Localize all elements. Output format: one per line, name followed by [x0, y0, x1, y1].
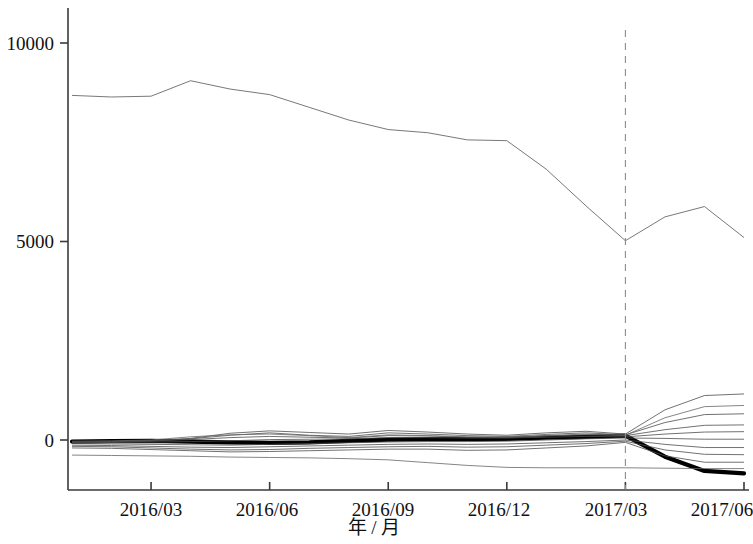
x-axis-title: 年 / 月	[348, 512, 401, 539]
y-tick-label-10000: 10000	[0, 34, 54, 53]
y-tick-label-0: 0	[0, 431, 54, 450]
x-tick-label-2016-12: 2016/12	[468, 500, 530, 519]
x-tick-label-2016-06: 2016/06	[236, 500, 298, 519]
y-tick-label-5000: 5000	[0, 232, 54, 251]
x-tick-label-2017-06: 2017/06	[691, 500, 753, 519]
data-series-group	[72, 81, 744, 474]
series-line-fan-series-9	[72, 455, 744, 468]
axes	[68, 8, 749, 490]
x-tick-label-2017-03: 2017/03	[585, 500, 647, 519]
y-axis-ticks	[60, 43, 68, 440]
x-tick-label-2016-03: 2016/03	[120, 500, 182, 519]
x-axis-ticks	[151, 482, 744, 490]
series-line-total-upper-series	[72, 81, 744, 241]
